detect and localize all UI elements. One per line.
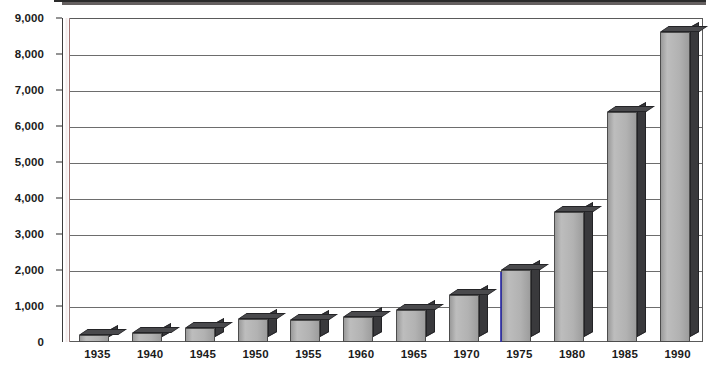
bar-front-face [132, 333, 162, 342]
x-tick-label: 1970 [453, 348, 479, 360]
bar-front-face [185, 328, 215, 342]
bar [290, 314, 329, 342]
bar [343, 311, 382, 342]
bar-top-face [132, 327, 180, 333]
bar-front-face [290, 320, 320, 342]
y-tick-mark [56, 306, 62, 307]
y-tick-mark [56, 126, 62, 127]
bar-front-face [238, 319, 268, 342]
x-tick-label: 1990 [664, 348, 690, 360]
y-tick-mark [56, 270, 62, 271]
bar-top-face [185, 322, 233, 328]
bar-side-face [531, 260, 540, 337]
bar-front-face [501, 270, 531, 342]
bar [185, 322, 224, 342]
x-tick-label: 1945 [190, 348, 216, 360]
bar-top-face [290, 314, 338, 320]
bar-top-face [238, 313, 286, 319]
bar-top-face [79, 329, 127, 335]
y-tick-mark [56, 90, 62, 91]
bar [79, 329, 118, 342]
x-tick-label: 1965 [401, 348, 427, 360]
bar-front-face [449, 295, 479, 342]
bar-top-face [607, 106, 655, 112]
y-tick-mark [56, 162, 62, 163]
x-tick-label: 1950 [242, 348, 268, 360]
scan-artifact-line [69, 20, 70, 200]
x-tick-label: 1960 [348, 348, 374, 360]
bar [238, 313, 277, 342]
bar-top-face [343, 311, 391, 317]
x-tick-label: 1940 [137, 348, 163, 360]
x-tick-label: 1985 [612, 348, 638, 360]
y-tick-mark [56, 54, 62, 55]
x-tick-label: 1980 [559, 348, 585, 360]
bar [132, 327, 171, 342]
y-tick-mark [56, 18, 62, 19]
bars-layer [0, 0, 713, 373]
bar [501, 264, 540, 342]
x-axis-line [54, 0, 706, 2]
bar-front-face [79, 335, 109, 342]
bar [607, 106, 646, 342]
bar-top-face [449, 289, 497, 295]
bar-chart: 01,0002,0003,0004,0005,0006,0007,0008,00… [0, 0, 713, 373]
bar-top-face [396, 304, 444, 310]
bar-front-face [607, 112, 637, 342]
bar-front-face [554, 212, 584, 342]
y-tick-mark [56, 234, 62, 235]
bar-top-face [660, 26, 708, 32]
bar-top-face [554, 206, 602, 212]
x-tick-label: 1935 [84, 348, 110, 360]
bar-top-face [501, 264, 549, 270]
bar-side-face [690, 22, 699, 337]
bar [396, 304, 435, 342]
bar [554, 206, 593, 342]
bar-side-face [584, 202, 593, 337]
bar-front-face [343, 317, 373, 342]
scan-artifact-line [500, 272, 502, 342]
bar [449, 289, 488, 342]
bar-front-face [660, 32, 690, 342]
y-tick-mark [56, 198, 62, 199]
x-axis: 1935194019451950195519601965197019751980… [0, 348, 713, 370]
x-tick-label: 1955 [295, 348, 321, 360]
x-tick-label: 1975 [506, 348, 532, 360]
bar [660, 26, 699, 342]
bar-side-face [637, 102, 646, 337]
bar-front-face [396, 310, 426, 342]
